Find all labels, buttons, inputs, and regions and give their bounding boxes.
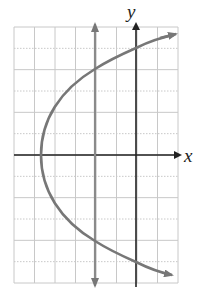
y-axis-label: y: [127, 2, 135, 21]
graph: [0, 0, 205, 300]
x-axis-label: x: [184, 146, 192, 165]
